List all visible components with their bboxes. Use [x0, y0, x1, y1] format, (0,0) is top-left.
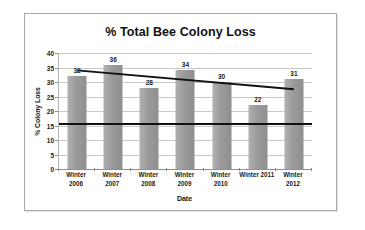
x-axis-category-label-line: Winter [275, 171, 311, 180]
x-axis-category-label: Winter2010 [203, 171, 239, 188]
x-axis-category-label: Winter2012 [275, 171, 311, 188]
y-axis-tick-label: 30 [47, 79, 54, 86]
y-axis-tick-mark [55, 111, 58, 112]
x-axis-category-label-line: 2009 [166, 180, 202, 189]
bar-value-label: 30 [218, 73, 225, 80]
x-axis-labels-group: Winter2006Winter2007Winter2008Winter2009… [58, 171, 311, 197]
bar-value-label: 28 [146, 79, 153, 86]
bar[interactable] [104, 65, 123, 169]
x-axis-category-label-line: 2012 [275, 180, 311, 189]
bar-value-label: 32 [73, 67, 80, 74]
y-axis-tick-label: 35 [47, 64, 54, 71]
y-axis-tick-label: 5 [50, 151, 54, 158]
y-axis-title-label: % Colony Loss [34, 87, 41, 136]
y-axis-tick-label: 10 [47, 137, 54, 144]
x-axis-category-label: Winter2009 [166, 171, 202, 188]
bar[interactable] [248, 105, 267, 169]
x-axis-category-label-line: Winter [94, 171, 130, 180]
y-axis-tick-label: 0 [50, 166, 54, 173]
y-axis-tick-mark [55, 126, 58, 127]
y-axis-tick-mark [55, 155, 58, 156]
bar[interactable] [176, 70, 195, 169]
bar-slot: 36 [95, 53, 131, 169]
x-axis-category-label: Winter2008 [130, 171, 166, 188]
bar-slot: 32 [59, 53, 95, 169]
y-axis-tick-mark [55, 97, 58, 98]
y-axis-tick-label: 20 [47, 108, 54, 115]
x-axis-category-label-line: 2010 [203, 180, 239, 189]
plot-area: 32362834302231 [58, 53, 312, 169]
bar-slot: 22 [240, 53, 276, 169]
x-axis-category-label: Winter 2011 [239, 171, 275, 180]
x-axis-category-label: Winter2007 [94, 171, 130, 188]
bar-value-label: 22 [254, 96, 261, 103]
y-axis-title: % Colony Loss [31, 53, 43, 169]
y-axis-tick-mark [55, 68, 58, 69]
bar-value-label: 31 [290, 70, 297, 77]
x-axis-category-label-line: 2006 [58, 180, 94, 189]
bar-slot: 31 [276, 53, 312, 169]
x-axis-category-label-line: Winter [130, 171, 166, 180]
y-axis-tick-label: 15 [47, 122, 54, 129]
bars-group: 32362834302231 [59, 53, 312, 169]
y-axis-tick-label: 40 [47, 50, 54, 57]
y-axis-tick-mark [55, 53, 58, 54]
x-axis-category-label: Winter2006 [58, 171, 94, 188]
threshold-line-annotation [59, 123, 312, 125]
y-axis-tick-mark [55, 82, 58, 83]
x-axis-category-label-line: Winter [58, 171, 94, 180]
chart-frame: % Total Bee Colony Loss % Colony Loss 32… [24, 13, 337, 211]
bar-slot: 34 [167, 53, 203, 169]
bar-slot: 30 [204, 53, 240, 169]
bar-slot: 28 [131, 53, 167, 169]
y-axis-tick-label: 25 [47, 93, 54, 100]
y-axis-tick-mark [55, 140, 58, 141]
chart-title: % Total Bee Colony Loss [25, 25, 336, 39]
plot-area-wrapper: 32362834302231 0510152025303540 [58, 53, 311, 169]
x-axis-category-label-line: 2007 [94, 180, 130, 189]
x-axis-category-label-line: Winter 2011 [239, 171, 275, 180]
x-axis-category-label-line: Winter [166, 171, 202, 180]
x-axis-category-label-line: Winter [203, 171, 239, 180]
x-axis-category-label-line: 2008 [130, 180, 166, 189]
bar[interactable] [212, 82, 231, 169]
x-axis-tick-mark [311, 168, 312, 171]
screenshot-root: % Total Bee Colony Loss % Colony Loss 32… [0, 0, 365, 230]
bar-value-label: 34 [182, 61, 189, 68]
x-axis-title: Date [58, 195, 311, 202]
bar[interactable] [140, 88, 159, 169]
bar-value-label: 36 [110, 56, 117, 63]
